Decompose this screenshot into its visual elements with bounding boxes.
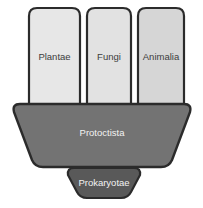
- protoctista-label: Protoctista: [80, 127, 126, 138]
- kingdom-fungi[interactable]: Fungi: [87, 8, 131, 105]
- animalia-label: Animalia: [143, 51, 180, 62]
- five-kingdoms-diagram: Plantae Fungi Animalia Protoctista Proka…: [0, 0, 203, 208]
- kingdom-protoctista[interactable]: Protoctista: [14, 104, 191, 167]
- prokaryotae-label: Prokaryotae: [78, 177, 129, 188]
- kingdom-prokaryotae[interactable]: Prokaryotae: [68, 168, 140, 198]
- kingdom-plantae[interactable]: Plantae: [29, 8, 80, 105]
- plantae-label: Plantae: [38, 51, 70, 62]
- kingdom-animalia[interactable]: Animalia: [138, 8, 184, 105]
- fungi-label: Fungi: [97, 51, 121, 62]
- kingdom-diagram-canvas: Plantae Fungi Animalia Protoctista Proka…: [0, 0, 203, 208]
